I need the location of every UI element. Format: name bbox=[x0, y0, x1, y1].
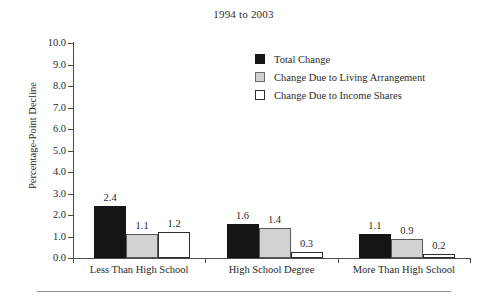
y-axis-tick-label: 5.0 bbox=[26, 146, 66, 156]
legend-swatch-gray-icon bbox=[255, 72, 265, 82]
x-axis-line bbox=[73, 258, 470, 259]
legend-item-living-arrangement: Change Due to Living Arrangement bbox=[255, 68, 425, 86]
legend-swatch-white-icon bbox=[255, 90, 265, 100]
legend-swatch-black-icon bbox=[255, 54, 265, 64]
bar bbox=[227, 224, 259, 258]
bar-value-label: 0.2 bbox=[417, 240, 461, 251]
y-axis-tick-label: 1.0 bbox=[26, 232, 66, 242]
y-axis-tick-label: 9.0 bbox=[26, 60, 66, 70]
bar bbox=[94, 206, 126, 258]
x-axis-tick bbox=[338, 258, 339, 263]
y-axis-tick-label: 3.0 bbox=[26, 189, 66, 199]
bar bbox=[158, 232, 190, 258]
y-axis-tick-label: 2.0 bbox=[26, 210, 66, 220]
bar-value-label: 0.3 bbox=[285, 238, 329, 249]
y-axis-tick-label: 0.0 bbox=[26, 253, 66, 263]
bar-chart-figure: 1994 to 2003 Percentage-Point Decline 10… bbox=[0, 0, 487, 305]
legend-item-income-shares: Change Due to Income Shares bbox=[255, 86, 425, 104]
chart-title: 1994 to 2003 bbox=[0, 8, 487, 20]
legend-label: Total Change bbox=[274, 54, 330, 65]
bar-value-label: 1.4 bbox=[253, 214, 297, 225]
x-axis-tick bbox=[205, 258, 206, 263]
chart-legend: Total Change Change Due to Living Arrang… bbox=[255, 50, 425, 104]
bar bbox=[359, 234, 391, 258]
bar-value-label: 1.2 bbox=[152, 218, 196, 229]
x-axis-tick bbox=[73, 258, 74, 263]
legend-item-total-change: Total Change bbox=[255, 50, 425, 68]
bar bbox=[423, 254, 455, 258]
x-axis-tick bbox=[470, 258, 471, 263]
legend-label: Change Due to Living Arrangement bbox=[274, 72, 425, 83]
y-axis-tick-label: 8.0 bbox=[26, 81, 66, 91]
bar-value-label: 2.4 bbox=[88, 192, 132, 203]
legend-label: Change Due to Income Shares bbox=[274, 90, 402, 101]
x-axis-category-label: More Than High School bbox=[324, 264, 484, 275]
y-axis-tick-label: 7.0 bbox=[26, 103, 66, 113]
footer-divider bbox=[37, 291, 451, 292]
bar bbox=[126, 234, 158, 258]
y-axis-tick-label: 6.0 bbox=[26, 124, 66, 134]
y-axis-tick-label: 4.0 bbox=[26, 167, 66, 177]
y-axis-tick-label: 10.0 bbox=[26, 38, 66, 48]
bar bbox=[291, 252, 323, 258]
bar-value-label: 0.9 bbox=[385, 225, 429, 236]
